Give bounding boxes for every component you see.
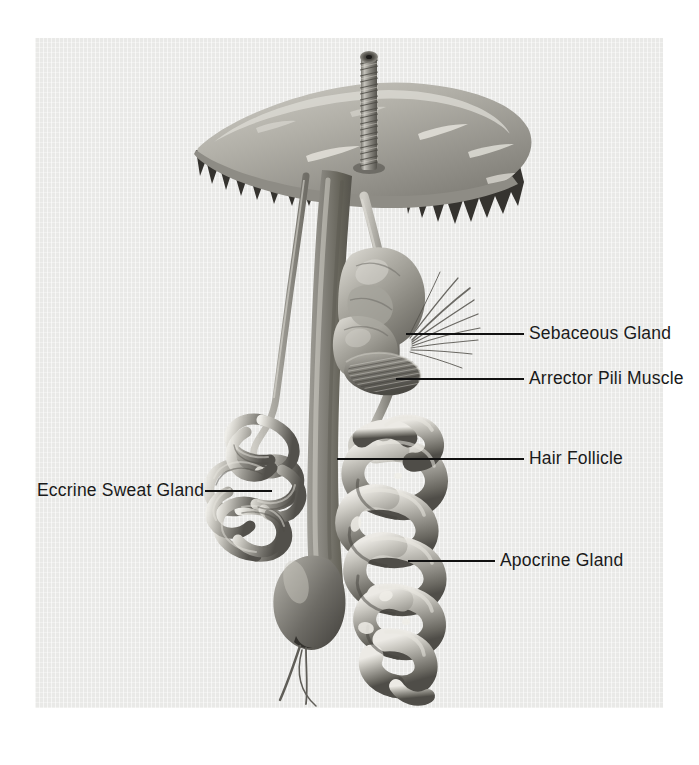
label-apocrine-gland: Apocrine Gland — [500, 552, 623, 570]
hair-shaft-tip-core — [366, 55, 372, 59]
label-sebaceous-gland: Sebaceous Gland — [529, 325, 671, 343]
figure-root: Sebaceous Gland Arrector Pili Muscle Hai… — [0, 0, 699, 765]
apocrine-gland-group — [347, 418, 437, 699]
label-hair-follicle: Hair Follicle — [529, 450, 623, 468]
hair-shaft-group — [360, 51, 378, 170]
label-eccrine-sweat-gland: Eccrine Sweat Gland — [37, 482, 204, 500]
eccrine-gland-group — [209, 176, 306, 556]
label-arrector-pili-muscle: Arrector Pili Muscle — [529, 370, 684, 388]
eccrine-duct-highlight — [274, 180, 304, 398]
arrector-pili-muscle — [344, 353, 421, 396]
bulb-vessels — [280, 646, 316, 706]
arrector-pili-group — [344, 353, 421, 397]
